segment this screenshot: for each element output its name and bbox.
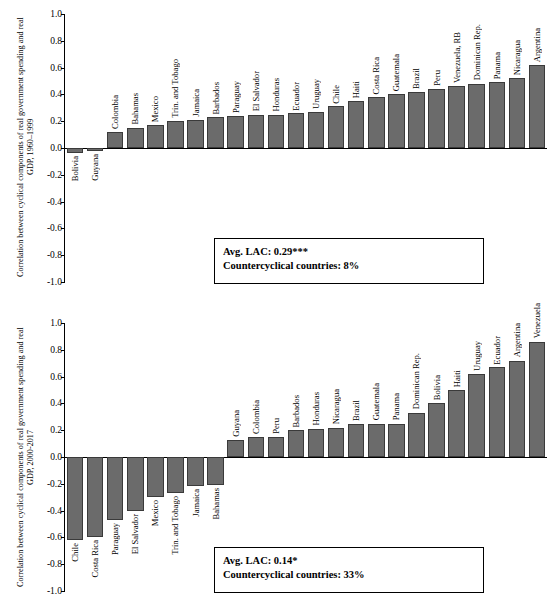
bar: [368, 97, 384, 148]
bar-category-label: Trin. and Tobago: [170, 59, 180, 118]
bar-category-label: Paraguay: [110, 523, 120, 555]
bar-category-label: Panama: [391, 393, 401, 420]
y-tick-label: -0.2: [47, 479, 62, 489]
bar: [489, 367, 505, 457]
bar-category-label: Trin. and Tobago: [170, 496, 180, 555]
bar-category-label: Chile: [331, 85, 341, 104]
bar-category-label: El Salvador: [130, 514, 140, 554]
bar: [509, 361, 525, 457]
bar: [529, 65, 545, 148]
bar: [187, 457, 203, 486]
bar-category-label: Brazil: [411, 68, 421, 89]
annotation-avg-lac-bottom: Avg. LAC: 0.14*: [223, 554, 475, 568]
annotation-countercyclical-bottom: Countercyclical countries: 33%: [223, 568, 475, 582]
y-tick-label: -0.4: [47, 197, 62, 207]
bar: [87, 148, 103, 151]
bar: [127, 457, 143, 511]
y-axis-label-bottom: Correlation between cyclical components …: [16, 323, 38, 591]
y-tick-label: -0.8: [47, 250, 62, 260]
bar-category-label: Nicaragua: [512, 40, 522, 75]
bar-category-label: Argentina: [512, 323, 522, 357]
bar: [288, 430, 304, 457]
bar: [509, 78, 525, 148]
bar-category-label: Colombia: [251, 400, 261, 434]
bar: [328, 106, 344, 148]
bar: [348, 424, 364, 458]
bar: [147, 125, 163, 148]
bar-category-label: Barbados: [211, 82, 221, 114]
bar-category-label: Dominican Rep.: [472, 24, 482, 80]
bar-category-label: Honduras: [311, 392, 321, 425]
bar: [388, 94, 404, 148]
bar: [308, 112, 324, 148]
bar: [207, 117, 223, 148]
bar-category-label: Paraguay: [231, 81, 241, 113]
y-axis-label-top: Correlation between cyclical components …: [16, 14, 38, 280]
y-tick-label: -0.4: [47, 506, 62, 516]
annotation-countercyclical-top: Countercyclical countries: 8%: [223, 259, 475, 273]
bar: [67, 148, 83, 153]
bar: [428, 89, 444, 148]
bar-category-label: Costa Rica: [371, 57, 381, 94]
bar: [147, 457, 163, 497]
bar-category-label: Argentina: [532, 28, 542, 62]
bar: [187, 120, 203, 148]
bar: [67, 457, 83, 540]
bar-category-label: Guyana: [90, 154, 100, 181]
bar-category-label: Guyana: [231, 410, 241, 437]
bar-category-label: Honduras: [271, 78, 281, 111]
bar: [328, 428, 344, 457]
bar: [167, 457, 183, 493]
bar-category-label: Colombia: [110, 95, 120, 129]
bar-category-label: Dominican Rep.: [411, 353, 421, 409]
bar-category-label: Brazil: [351, 400, 361, 421]
bar: [227, 116, 243, 148]
bar: [248, 437, 264, 457]
y-tick-label: -0.6: [47, 223, 62, 233]
bar-category-label: Bahamas: [211, 488, 221, 520]
bar: [288, 113, 304, 148]
y-axis-tick-labels-bottom: 1.0 0.8 0.6 0.4 0.2 0.0 -0.2 -0.4 -0.6 -…: [38, 305, 62, 609]
bar-category-label: Mexico: [150, 96, 160, 122]
chart-panel-top: Correlation between cyclical components …: [0, 0, 550, 300]
bar: [127, 128, 143, 148]
bar: [348, 101, 364, 148]
bar-category-label: Costa Rica: [90, 540, 100, 577]
bar-category-label: El Salvador: [251, 71, 261, 111]
bar: [308, 429, 324, 457]
bar-category-label: Bolivia: [70, 156, 80, 181]
y-axis-tick-labels-top: 1.0 0.8 0.6 0.4 0.2 0.0 -0.2 -0.4 -0.6 -…: [38, 0, 62, 300]
bar-category-label: Uruguay: [311, 79, 321, 109]
bar: [428, 403, 444, 457]
bar-category-label: Venezuela: [532, 303, 542, 338]
bar: [87, 457, 103, 537]
bar-category-label: Jamaica: [191, 89, 201, 117]
bar: [368, 424, 384, 458]
annotation-box-bottom: Avg. LAC: 0.14* Countercyclical countrie…: [214, 547, 484, 593]
bar: [489, 82, 505, 148]
y-tick-label: -0.2: [47, 170, 62, 180]
bar-category-label: Guatemala: [391, 54, 401, 91]
bar-category-label: Guatemala: [371, 383, 381, 420]
annotation-box-top: Avg. LAC: 0.29*** Countercyclical countr…: [214, 238, 484, 284]
bar-category-label: Venezuela, RB: [452, 32, 462, 83]
bar-category-label: Mexico: [150, 500, 160, 526]
bar: [448, 86, 464, 148]
bar-category-label: Haiti: [351, 81, 361, 98]
bar: [468, 84, 484, 148]
bar-category-label: Uruguay: [472, 341, 482, 371]
bar-category-label: Bolivia: [432, 375, 442, 400]
annotation-avg-lac-top: Avg. LAC: 0.29***: [223, 245, 475, 259]
bar-category-label: Ecuador: [291, 82, 301, 111]
y-tick-label: -1.0: [47, 277, 62, 287]
bar-category-label: Haiti: [452, 370, 462, 387]
bar-category-label: Peru: [432, 70, 442, 86]
bar: [408, 92, 424, 148]
bar-category-label: Jamaica: [191, 489, 201, 517]
bar: [107, 457, 123, 520]
bar: [227, 440, 243, 457]
bar-category-label: Chile: [70, 543, 80, 562]
bar-category-label: Peru: [271, 418, 281, 434]
chart-page: Correlation between cyclical components …: [0, 0, 550, 609]
bar: [248, 115, 264, 149]
